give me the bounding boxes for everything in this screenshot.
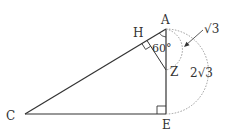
angle-arc-60 (159, 33, 166, 37)
arrow-sqrt3 (186, 30, 203, 45)
label-sqrt3: √3 (204, 22, 219, 36)
label-angle-60: 60° (152, 42, 172, 55)
geometry-diagram: A H Z C E 60° √3 2√3 (0, 0, 229, 134)
right-angle-mark-E (157, 106, 166, 114)
label-E: E (162, 118, 171, 132)
label-A: A (160, 13, 170, 27)
label-Z: Z (170, 65, 178, 79)
label-C: C (6, 109, 15, 123)
segment-AC (25, 29, 166, 114)
label-H: H (133, 26, 143, 40)
diagram-canvas: A H Z C E 60° √3 2√3 (0, 0, 229, 134)
label-2sqrt3: 2√3 (190, 66, 213, 80)
